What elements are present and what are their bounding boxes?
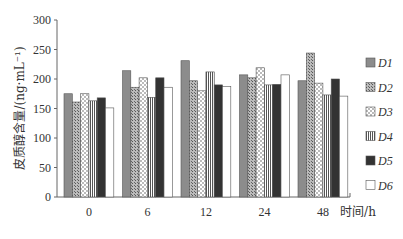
bar-d5-t6 bbox=[156, 78, 164, 197]
legend-swatch bbox=[366, 181, 375, 190]
legend-label: D1 bbox=[377, 56, 393, 70]
bar-d2-t0 bbox=[72, 102, 80, 197]
bar-d1-t6 bbox=[123, 71, 131, 197]
legend-swatch bbox=[366, 107, 375, 116]
bar-d2-t12 bbox=[189, 81, 197, 197]
bar-d3-t48 bbox=[315, 83, 323, 197]
bar-d6-t0 bbox=[106, 108, 114, 197]
bar-d4-t48 bbox=[323, 95, 331, 197]
y-tick-label: 300 bbox=[33, 13, 51, 27]
y-tick-label: 150 bbox=[33, 102, 51, 116]
bar-d6-t48 bbox=[340, 96, 348, 197]
bar-d1-t48 bbox=[298, 81, 306, 197]
x-tick-label: 6 bbox=[144, 205, 150, 219]
legend-swatch bbox=[366, 83, 375, 92]
legend-swatch bbox=[366, 132, 375, 141]
y-tick-label: 250 bbox=[33, 43, 51, 57]
y-tick-label: 100 bbox=[33, 131, 51, 145]
bar-d2-t24 bbox=[248, 78, 256, 197]
bar-d3-t12 bbox=[198, 91, 206, 197]
legend-item-d1: D1 bbox=[366, 56, 393, 70]
legend-label: D5 bbox=[377, 154, 393, 168]
bar-d1-t24 bbox=[240, 75, 248, 197]
x-tick-label: 24 bbox=[258, 205, 270, 219]
y-axis-label: 皮质醇含量/(ng·mL⁻¹) bbox=[12, 46, 27, 169]
bar-d5-t24 bbox=[273, 84, 281, 197]
legend-label: D4 bbox=[377, 130, 393, 144]
bar-d1-t12 bbox=[181, 61, 189, 197]
legend: D1D2D3D4D5D6 bbox=[366, 56, 393, 193]
x-tick-label: 0 bbox=[86, 205, 92, 219]
bar-d5-t0 bbox=[97, 98, 105, 197]
legend-label: D3 bbox=[377, 105, 393, 119]
bars bbox=[64, 53, 348, 197]
legend-item-d6: D6 bbox=[366, 179, 393, 193]
legend-label: D6 bbox=[377, 179, 393, 193]
x-tick-label: 12 bbox=[200, 205, 212, 219]
legend-swatch bbox=[366, 58, 375, 67]
bar-d6-t6 bbox=[164, 87, 172, 197]
x-axis-label: 时间/h bbox=[340, 205, 376, 219]
bar-d2-t6 bbox=[131, 87, 139, 197]
legend-item-d3: D3 bbox=[366, 105, 393, 119]
bar-d6-t12 bbox=[223, 87, 231, 197]
bar-d2-t48 bbox=[306, 53, 314, 197]
bar-d3-t24 bbox=[256, 68, 264, 197]
bar-d6-t24 bbox=[281, 75, 289, 197]
bar-d3-t0 bbox=[81, 94, 89, 197]
y-tick-label: 0 bbox=[45, 190, 51, 204]
bar-d5-t12 bbox=[214, 85, 222, 197]
legend-label: D2 bbox=[377, 81, 393, 95]
legend-item-d4: D4 bbox=[366, 130, 393, 144]
bar-d4-t0 bbox=[89, 101, 97, 197]
bar-d4-t6 bbox=[147, 97, 155, 197]
legend-swatch bbox=[366, 156, 375, 165]
bar-chart: 050100150200250300皮质醇含量/(ng·mL⁻¹)0612244… bbox=[0, 0, 403, 239]
bar-d3-t6 bbox=[139, 78, 147, 197]
bar-d4-t12 bbox=[206, 72, 214, 197]
bar-d5-t48 bbox=[331, 79, 339, 197]
y-tick-label: 200 bbox=[33, 72, 51, 86]
y-tick-label: 50 bbox=[39, 161, 51, 175]
x-tick-label: 48 bbox=[317, 205, 329, 219]
bar-d1-t0 bbox=[64, 94, 72, 197]
legend-item-d2: D2 bbox=[366, 81, 393, 95]
bar-d4-t24 bbox=[264, 85, 272, 197]
legend-item-d5: D5 bbox=[366, 154, 393, 168]
